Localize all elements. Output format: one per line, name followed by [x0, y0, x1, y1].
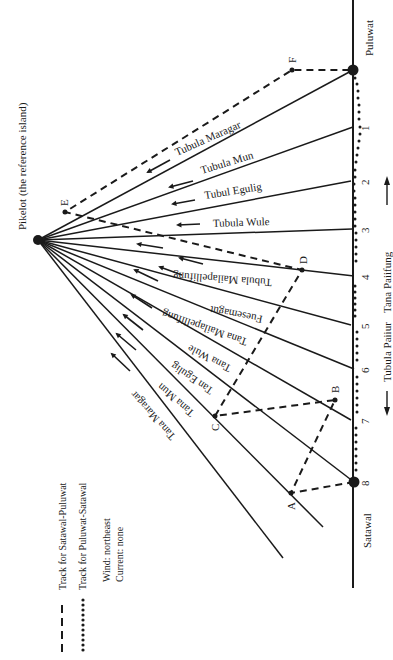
station-label: 2: [359, 180, 371, 186]
track-dot: [354, 176, 357, 179]
station-label: 1: [359, 126, 371, 132]
track-point-D-dot: [300, 268, 305, 273]
track-dot: [356, 411, 359, 414]
direction-arrow-icon: [138, 244, 163, 248]
bearing-label-tubul-egulig: Tubul Egulig: [203, 180, 263, 201]
track-dot: [356, 338, 359, 341]
track-dot: [358, 104, 361, 107]
track-dot: [354, 204, 357, 207]
track-dot: [354, 169, 357, 172]
legend-dot: [81, 598, 84, 601]
arrowhead-icon: [178, 256, 184, 261]
track-point-B-label: B: [329, 386, 341, 393]
legend-dot: [81, 608, 84, 611]
bearing-label-tubula-mailapellifung: Tubula Mailapellifung: [172, 270, 272, 289]
track-dot: [353, 183, 356, 186]
track-point-E-label: E: [58, 199, 70, 206]
track-dot: [356, 345, 359, 348]
current-label: Current: none: [114, 526, 125, 582]
puluwat-label: Puluwat: [363, 20, 375, 56]
station-label: 4: [359, 274, 371, 280]
track-point-D-label: D: [297, 256, 309, 264]
track-dot: [354, 211, 357, 214]
arrowhead-icon: [171, 201, 177, 206]
track-dot: [355, 246, 358, 249]
legend-dot: [81, 628, 84, 631]
satawal-label: Satawal: [361, 513, 373, 548]
track-dot: [355, 253, 358, 256]
track-dot: [355, 232, 358, 235]
arrowhead-icon: [176, 222, 182, 227]
track-dot: [354, 303, 357, 306]
puluwat-island-dot: [348, 65, 359, 76]
track-dot: [355, 427, 358, 430]
legend-dot: [81, 618, 84, 621]
track-dot: [357, 147, 360, 150]
track-dot: [356, 352, 359, 355]
arrow-down-icon: [384, 391, 390, 416]
arrowhead-icon: [168, 184, 174, 189]
legend-dot: [81, 643, 84, 646]
station-label: 8: [359, 480, 371, 486]
station-label: 5: [359, 323, 371, 329]
legend-dot: [81, 633, 84, 636]
station-labels: 12345678: [359, 126, 371, 487]
track-point-C-dot: [213, 414, 218, 419]
track-dot: [355, 434, 358, 437]
reference-island-label: Pikelot (the reference island): [16, 102, 29, 230]
track-dot: [354, 291, 357, 294]
direction-arrow-icon: [132, 295, 152, 308]
track-dot: [354, 225, 357, 228]
legend-dotted-label: Track for Puluwat-Satawal: [77, 482, 88, 590]
bearing-label-tubula-wule: Tubula Wule: [213, 215, 270, 229]
track-dot: [355, 448, 358, 451]
legend-dotted-swatch: [81, 598, 84, 651]
bearing-labels: Tubula Maragar Tubula Mun Tubul Egulig T…: [127, 118, 272, 443]
legend-dot: [81, 603, 84, 606]
track-dot: [354, 285, 357, 288]
track-dot: [358, 140, 361, 143]
track-point-F-dot: [290, 68, 295, 73]
bearing-arrows: [111, 160, 203, 371]
track-dot: [354, 197, 357, 200]
bearing-line: [38, 70, 353, 240]
track-dot: [357, 97, 360, 100]
track-point-C-label: C: [209, 424, 221, 431]
track-dot: [354, 218, 357, 221]
track-dot: [355, 455, 358, 458]
track-dot: [353, 190, 356, 193]
track-dot: [357, 90, 360, 93]
track-dot: [358, 111, 361, 114]
track-dot: [356, 397, 359, 400]
track-dot: [354, 309, 357, 312]
track-dot: [356, 383, 359, 386]
legend-dot: [81, 648, 84, 651]
legend-dashed-label: Track for Satawal-Puluwat: [57, 482, 68, 590]
track-dot: [354, 297, 357, 300]
legend-dot: [81, 623, 84, 626]
track-dot: [354, 315, 357, 318]
bearing-label-fuesemagut: Fuesemagut: [209, 304, 263, 326]
direction-arrow-icon: [124, 315, 143, 330]
legend-dot: [81, 613, 84, 616]
track-dot: [356, 359, 359, 362]
track-dot: [356, 154, 359, 157]
track-point-A-dot: [289, 491, 294, 496]
track-dot: [355, 260, 358, 263]
track-dot: [356, 376, 359, 379]
track-point-B-dot: [333, 398, 338, 403]
station-label: 7: [359, 418, 371, 424]
track-dot: [356, 83, 359, 86]
track-dot: [355, 469, 358, 472]
satawal-island-dot: [349, 477, 360, 488]
track-dot: [356, 404, 359, 407]
track-dot: [358, 118, 361, 121]
track-dot: [355, 462, 358, 465]
tubula-paiiur-label: Tubula Paiiur: [381, 322, 393, 382]
pikelot-island-dot: [33, 235, 43, 245]
station-label: 3: [359, 227, 371, 233]
wind-label: Wind: northeast: [101, 518, 112, 582]
track-dot: [355, 161, 358, 164]
arrowhead-icon: [136, 242, 142, 247]
track-dot: [354, 77, 357, 80]
